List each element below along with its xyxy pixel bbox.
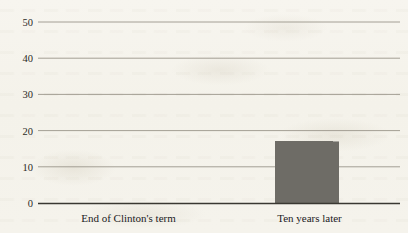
y-tick-label-20: 20 xyxy=(23,126,34,137)
y-tick-label-50: 50 xyxy=(23,17,34,28)
x-tick-label-end-of-clintons-term: End of Clinton's term xyxy=(81,212,176,224)
bar-chart-figure: 50 40 30 20 10 0 End of Clinton's term T… xyxy=(0,0,408,233)
chart-plot-area: 50 40 30 20 10 0 End of Clinton's term T… xyxy=(0,0,408,233)
gridlines-group xyxy=(38,22,400,167)
y-tick-label-10: 10 xyxy=(23,162,34,173)
y-tick-label-0: 0 xyxy=(28,198,33,209)
y-tick-label-30: 30 xyxy=(23,89,34,100)
y-tick-label-40: 40 xyxy=(23,53,34,64)
bars-group xyxy=(275,141,339,203)
x-tick-label-ten-years-later: Ten years later xyxy=(277,212,342,224)
bar-ten-years-later[interactable] xyxy=(275,141,333,203)
